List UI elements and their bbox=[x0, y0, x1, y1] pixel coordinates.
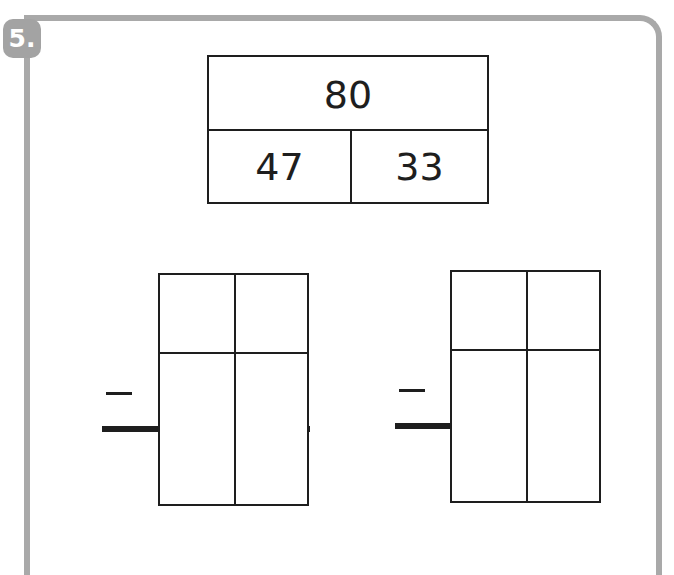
grid-cell-r3-tens[interactable] bbox=[452, 430, 526, 503]
grid-cell-r2-ones[interactable] bbox=[236, 354, 309, 429]
grid-cell-r3-ones[interactable] bbox=[528, 430, 601, 503]
grid-cell-r3-ones[interactable] bbox=[236, 433, 309, 506]
minus-sign-icon bbox=[399, 389, 425, 392]
grid-cell-r1-ones[interactable] bbox=[528, 272, 601, 349]
number-bond-table: 80 47 33 bbox=[207, 55, 489, 204]
subtraction-grid-2 bbox=[450, 270, 601, 503]
grid-cell-r1-ones[interactable] bbox=[236, 275, 309, 352]
grid-cell-r3-tens[interactable] bbox=[160, 433, 234, 506]
number-bond-whole: 80 bbox=[209, 57, 487, 131]
minus-sign-icon bbox=[106, 392, 132, 395]
grid-cell-r2-tens[interactable] bbox=[452, 351, 526, 426]
grid-cell-r2-ones[interactable] bbox=[528, 351, 601, 426]
number-bond-part-2: 33 bbox=[352, 131, 487, 202]
subtraction-grid-1 bbox=[158, 273, 309, 506]
grid-cell-r2-tens[interactable] bbox=[160, 354, 234, 429]
exercise-number-badge: 5. bbox=[3, 19, 41, 58]
grid-cell-r1-tens[interactable] bbox=[160, 275, 234, 352]
grid-cell-r1-tens[interactable] bbox=[452, 272, 526, 349]
number-bond-part-1: 47 bbox=[209, 131, 352, 202]
